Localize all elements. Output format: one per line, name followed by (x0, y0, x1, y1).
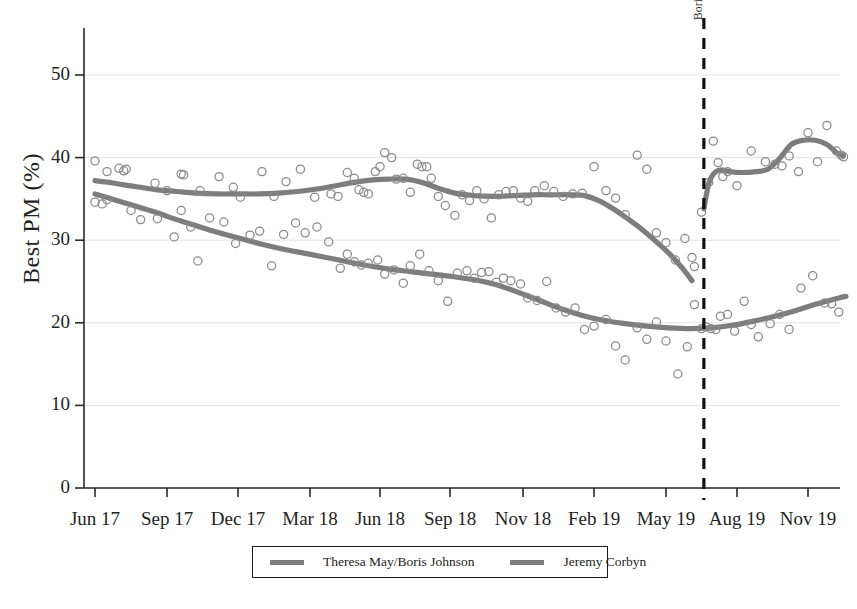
data-point (416, 250, 424, 258)
data-point (731, 327, 739, 335)
data-point (683, 343, 691, 351)
data-point (296, 165, 304, 173)
data-point (719, 173, 727, 181)
data-point (371, 168, 379, 176)
data-point (643, 335, 651, 343)
data-point (103, 168, 111, 176)
data-point (406, 188, 414, 196)
data-point (688, 253, 696, 261)
data-point (835, 308, 843, 316)
data-point (766, 320, 774, 328)
data-point (177, 206, 185, 214)
legend-item-jeremy-corbyn: Jeremy Corbyn (510, 554, 646, 570)
legend-label: Jeremy Corbyn (563, 554, 646, 570)
data-point (137, 216, 145, 224)
data-point (733, 182, 741, 190)
data-point (662, 337, 670, 345)
data-point (343, 168, 351, 176)
data-point (292, 219, 300, 227)
data-point (153, 215, 161, 223)
data-point (797, 284, 805, 292)
data-point (590, 163, 598, 171)
data-point (709, 137, 717, 145)
data-point (434, 277, 442, 285)
data-point (194, 257, 202, 265)
legend-swatch-icon (510, 560, 544, 565)
data-point (343, 250, 351, 258)
chart-figure: Best PM (%) 01020304050 Jun 17Sep 17Dec … (0, 0, 857, 609)
data-point (517, 280, 525, 288)
legend-swatch-icon (270, 560, 304, 565)
data-point (761, 158, 769, 166)
data-point (785, 152, 793, 160)
data-point (336, 264, 344, 272)
legend-item-theresa-may-boris-johnson: Theresa May/Boris Johnson (270, 554, 474, 570)
chart-legend: Theresa May/Boris Johnson Jeremy Corbyn (252, 546, 608, 578)
y-tick-label: 50 (26, 63, 70, 85)
data-point (444, 297, 452, 305)
data-point (754, 333, 762, 341)
data-point (487, 214, 495, 222)
series-scatter-points (91, 121, 848, 378)
data-point (246, 231, 254, 239)
data-point (374, 256, 382, 264)
tick-marks (75, 75, 808, 497)
data-point (406, 262, 414, 270)
data-point (220, 218, 228, 226)
data-point (427, 174, 435, 182)
y-tick-label: 30 (26, 228, 70, 250)
data-point (381, 270, 389, 278)
data-point (740, 297, 748, 305)
data-point (507, 277, 515, 285)
data-point (434, 192, 442, 200)
data-point (258, 168, 266, 176)
data-point (681, 234, 689, 242)
data-point (206, 214, 214, 222)
data-point (215, 173, 223, 181)
axes (84, 28, 840, 488)
y-tick-label: 20 (26, 311, 70, 333)
data-point (602, 187, 610, 195)
annotation-label-boris-johnson-becomes-pm: Boris Johnson becomes PM (692, 0, 704, 20)
data-point (151, 179, 159, 187)
x-tick-label: Nov 19 (753, 508, 857, 530)
data-point (441, 201, 449, 209)
y-tick-label: 40 (26, 146, 70, 168)
data-point (451, 211, 459, 219)
data-point (804, 129, 812, 137)
data-point (399, 279, 407, 287)
data-point (268, 262, 276, 270)
data-point (301, 229, 309, 237)
legend-label: Theresa May/Boris Johnson (323, 554, 474, 570)
data-point (643, 165, 651, 173)
data-point (809, 272, 817, 280)
data-point (524, 197, 532, 205)
gridlines (84, 75, 840, 488)
data-point (690, 263, 698, 271)
data-point (690, 301, 698, 309)
data-point (785, 325, 793, 333)
data-point (334, 192, 342, 200)
data-point (364, 190, 372, 198)
data-point (674, 370, 682, 378)
data-point (543, 277, 551, 285)
data-point (794, 168, 802, 176)
data-point (376, 163, 384, 171)
data-point (256, 227, 264, 235)
series-trend-lines (95, 140, 846, 329)
data-point (127, 206, 135, 214)
data-point (540, 182, 548, 190)
data-point (580, 325, 588, 333)
y-tick-label: 0 (26, 476, 70, 498)
data-point (621, 356, 629, 364)
data-point (280, 230, 288, 238)
data-point (714, 159, 722, 167)
data-point (463, 267, 471, 275)
data-point (612, 194, 620, 202)
data-point (325, 238, 333, 246)
data-point (612, 342, 620, 350)
data-point (282, 178, 290, 186)
data-point (311, 193, 319, 201)
data-point (652, 229, 660, 237)
data-point (813, 158, 821, 166)
